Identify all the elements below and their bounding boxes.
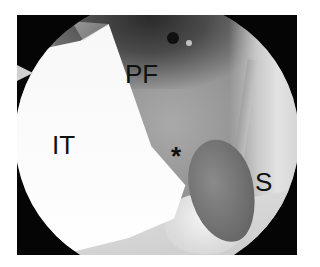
label-pf: PF — [125, 61, 158, 87]
dark-spot — [167, 32, 179, 44]
light-reflection — [186, 40, 192, 46]
label-s: S — [255, 169, 272, 195]
label-it: IT — [52, 132, 75, 158]
label-asterisk: * — [171, 143, 181, 169]
